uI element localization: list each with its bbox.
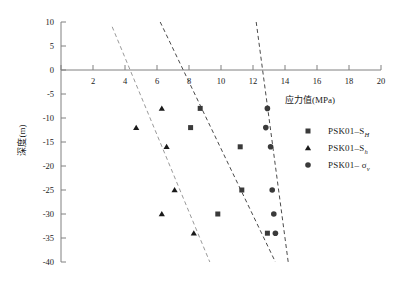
x-tick-label: 4 <box>123 76 128 86</box>
x-tick-label: 12 <box>249 76 258 86</box>
legend-circle-marker-icon <box>305 162 311 168</box>
trend-sh-trendline <box>112 27 210 262</box>
legend-label: PSK01–Sh <box>328 143 368 155</box>
legend-label: PSK01– σv <box>328 160 370 172</box>
x-tick-label: 18 <box>345 76 354 86</box>
data-point-triangle <box>159 211 165 216</box>
y-tick-label: -10 <box>43 113 54 123</box>
data-point-circle <box>271 211 277 217</box>
trend-sh-major-trendline <box>160 22 275 262</box>
data-point-circle <box>273 230 279 236</box>
y-tick-label: -15 <box>43 137 54 147</box>
y-tick-label: -25 <box>43 185 54 195</box>
data-points-group <box>133 105 278 236</box>
data-point-square <box>215 212 220 217</box>
data-point-square <box>239 188 244 193</box>
x-tick-label: 16 <box>313 76 322 86</box>
y-tick-label: -20 <box>43 161 54 171</box>
x-tick-label: 10 <box>217 76 226 86</box>
y-tick-label: -35 <box>43 233 54 243</box>
x-tick-label: 2 <box>91 76 95 86</box>
data-point-triangle <box>159 105 165 110</box>
y-tick-label: 0 <box>50 65 54 75</box>
x-tick-label: 14 <box>281 76 290 86</box>
y-tick-label: -5 <box>47 89 54 99</box>
y-tick-label: 10 <box>46 17 55 27</box>
data-point-circle <box>269 187 275 193</box>
data-point-circle <box>265 106 271 112</box>
data-point-square <box>188 125 193 130</box>
y-tick-label: -30 <box>43 209 54 219</box>
x-axis-ticks: 2468101214161820 <box>61 65 385 86</box>
x-tick-label: 20 <box>377 76 386 86</box>
trend-sigma-v-trendline <box>256 22 288 262</box>
axes-group <box>61 22 381 262</box>
data-point-circle <box>268 144 274 150</box>
data-point-circle <box>263 125 269 131</box>
legend-label: PSK01–SH <box>328 126 369 138</box>
trend-lines-group <box>112 22 288 262</box>
x-tick-label: 6 <box>155 76 159 86</box>
data-point-square <box>238 144 243 149</box>
chart-canvas: 1050-5-10-15-20-25-30-35-40 246810121416… <box>0 0 395 291</box>
data-point-triangle <box>191 230 197 235</box>
legend-triangle-marker-icon <box>305 145 311 150</box>
y-tick-label: -40 <box>43 257 54 267</box>
y-tick-label: 5 <box>50 41 54 51</box>
data-point-triangle <box>133 125 139 130</box>
legend-square-marker-icon <box>306 129 311 134</box>
y-axis-title: 深度(m) <box>16 125 27 156</box>
data-point-square <box>265 231 270 236</box>
chart-legend: PSK01–SHPSK01–ShPSK01– σv <box>305 126 370 172</box>
data-point-square <box>198 106 203 111</box>
x-axis-title: 应力值(MPa) <box>285 94 335 105</box>
y-axis-ticks: 1050-5-10-15-20-25-30-35-40 <box>43 17 66 267</box>
data-point-triangle <box>172 187 178 192</box>
stress-depth-scatter-chart: 1050-5-10-15-20-25-30-35-40 246810121416… <box>0 0 395 291</box>
data-point-triangle <box>164 144 170 149</box>
